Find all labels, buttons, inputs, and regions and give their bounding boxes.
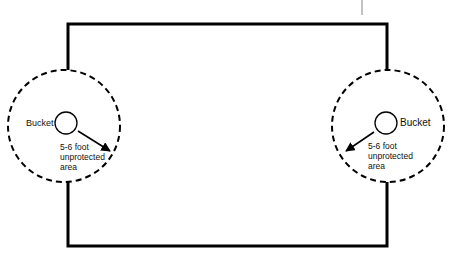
left-area-label-1: 5-6 foot <box>60 142 89 152</box>
right-area-label-1: 5-6 foot <box>368 141 397 151</box>
left-area-label-3: area <box>60 162 77 172</box>
right-area-label-2: unprotected <box>368 151 413 161</box>
left-unprotected-zone: Bucket 5-6 foot unprotected area <box>8 70 120 182</box>
perimeter-wall <box>68 24 387 246</box>
right-bucket-label: Bucket <box>400 117 431 128</box>
left-area-label-2: unprotected <box>60 152 105 162</box>
diagram-svg: Bucket 5-6 foot unprotected area Bucket … <box>0 0 456 257</box>
right-area-label-3: area <box>368 161 385 171</box>
left-bucket-label: Bucket <box>26 118 54 128</box>
left-bucket-circle <box>55 112 77 134</box>
right-unprotected-zone: Bucket 5-6 foot unprotected area <box>332 70 444 182</box>
diagram-canvas: Bucket 5-6 foot unprotected area Bucket … <box>0 0 456 257</box>
right-bucket-circle <box>375 112 397 134</box>
